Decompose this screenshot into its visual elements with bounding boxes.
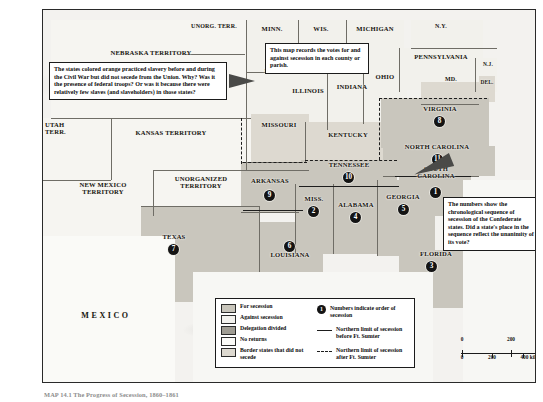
label-tennessee: TENNESSEE: [313, 162, 385, 169]
secession-limit-after-sumter-line: [379, 98, 487, 99]
legend-item: No returns: [221, 336, 311, 346]
legend-item: For secession: [221, 303, 311, 313]
secession-number-mississippi: 2: [308, 206, 319, 217]
border-line: [153, 170, 154, 216]
compass-rose: N E S W: [535, 68, 536, 112]
region-georgia: [377, 180, 435, 256]
legend-swatch-against-secession: [221, 315, 236, 324]
border-line: [259, 206, 260, 272]
border-line: [333, 184, 334, 254]
label-georgia: GEORGIA: [377, 194, 429, 201]
legend-dashed-line-marker: [317, 351, 332, 352]
label-louisiana: LOUISIANA: [259, 252, 321, 259]
border-line: [411, 48, 497, 49]
scale-tick: [511, 350, 512, 357]
secession-limit-before-sumter-line: [243, 210, 303, 211]
label-illinois: ILLINOIS: [283, 88, 333, 95]
legend-label: Border states that did not secede: [240, 347, 311, 361]
label-maryland: MD.: [437, 76, 465, 82]
border-line: [111, 118, 112, 180]
map-frame: NEBRASKA TERRITORY UNORG. TERR. KANSAS T…: [42, 9, 536, 383]
scale-tick-label: 400 kilometers: [520, 354, 536, 360]
label-florida: FLORIDA: [413, 251, 459, 258]
scale-bar-kilometers: 0 200 400 kilometers: [461, 357, 536, 366]
legend-label: Against secession: [240, 314, 283, 321]
compass-rose-icon: [535, 68, 536, 112]
border-line: [377, 180, 378, 256]
region-indiana: [327, 68, 363, 130]
label-arkansas: ARKANSAS: [241, 178, 299, 185]
border-line: [399, 48, 400, 92]
label-mississippi: MISS.: [295, 196, 333, 203]
label-michigan: MICHIGAN: [347, 26, 403, 33]
secession-number-arkansas: 9: [264, 190, 275, 201]
label-minnesota: MINN.: [249, 26, 295, 33]
secession-limit-after-sumter-line: [243, 162, 307, 163]
label-new-york: N.Y.: [421, 23, 461, 29]
callout-county-votes: This map records the votes for and again…: [265, 43, 369, 74]
legend-swatch-for-secession: [221, 304, 236, 313]
legend-label: Numbers indicate order of secession: [330, 305, 409, 319]
border-line: [153, 170, 251, 171]
label-kentucky: KENTUCKY: [319, 132, 377, 139]
label-nebraska-territory: NEBRASKA TERRITORY: [81, 50, 221, 57]
scale-bar-miles: 0 200 400 miles: [461, 340, 536, 349]
border-line: [327, 68, 328, 130]
legend-item: Northern limit of secession after Ft. Su…: [317, 347, 409, 361]
label-new-mexico-territory: NEW MEXICO TERRITORY: [59, 182, 147, 195]
region-kentucky: [305, 122, 387, 162]
scale-tick-label: 0: [461, 336, 464, 342]
secession-limit-before-sumter-line: [299, 186, 399, 187]
legend-item: Border states that did not secede: [221, 347, 311, 361]
legend-label: Delegation divided: [240, 325, 286, 332]
border-line: [246, 20, 247, 170]
border-line: [141, 206, 259, 207]
border-line: [475, 58, 476, 92]
secession-number-virginia: 8: [434, 116, 445, 127]
legend-item: Against secession: [221, 314, 311, 324]
legend-label: No returns: [240, 336, 267, 343]
label-kansas-territory: KANSAS TERRITORY: [105, 130, 237, 137]
legend-item: 1 Numbers indicate order of secession: [317, 305, 409, 319]
scale-tick-label: 200: [488, 354, 496, 360]
border-line: [241, 212, 299, 213]
label-new-jersey: N.J.: [477, 62, 499, 68]
border-line: [295, 184, 296, 254]
border-line: [51, 118, 251, 119]
label-mexico: MEXICO: [61, 312, 151, 320]
label-unorganized-territory: UNORGANIZED TERRITORY: [161, 176, 241, 189]
legend-swatch-no-returns: [221, 337, 236, 346]
label-delaware: DEL.: [477, 80, 497, 86]
map-legend: For secession Against secession Delegati…: [215, 298, 415, 368]
legend-label: Northern limit of secession before Ft. S…: [336, 326, 409, 340]
label-north-carolina: NORTH CAROLINA: [387, 144, 487, 151]
legend-swatch-delegation-divided: [221, 326, 236, 335]
label-indiana: INDIANA: [329, 84, 375, 91]
secession-number-texas: 7: [168, 244, 179, 255]
label-wisconsin: WIS.: [301, 26, 341, 33]
label-alabama: ALABAMA: [333, 202, 379, 209]
secession-number-georgia: 5: [398, 204, 409, 215]
secession-number-florida: 3: [426, 261, 437, 272]
secession-number-south-carolina: 1: [430, 187, 441, 198]
label-utah-territory: UTAH TERR.: [45, 122, 85, 135]
label-missouri: MISSOURI: [251, 122, 307, 129]
secession-number-alabama: 4: [350, 212, 361, 223]
scale-tick-label: 200: [507, 336, 515, 342]
secession-number-louisiana: 6: [284, 241, 295, 252]
label-unorg-terr: UNORG. TERR.: [191, 23, 237, 29]
scale-tick-label: 0: [461, 354, 464, 360]
region-mexico: [43, 236, 175, 382]
callout-sequence-numbers: The numbers show the chronological seque…: [443, 197, 536, 251]
figure-caption: MAP 14.1 The Progress of Secession, 1860…: [44, 391, 464, 402]
border-line: [251, 170, 309, 171]
secession-number-tennessee: 10: [343, 172, 354, 183]
callout-orange-states: The states colored orange practiced slav…: [49, 62, 227, 100]
secession-limit-after-sumter-line: [241, 118, 243, 164]
label-pennsylvania: PENNSYLVANIA: [401, 54, 481, 61]
legend-solid-line-marker: [317, 330, 332, 331]
legend-swatch-border-states: [221, 348, 236, 357]
legend-item: Northern limit of secession before Ft. S…: [317, 326, 409, 340]
label-virginia: VIRGINIA: [409, 106, 471, 113]
secession-limit-after-sumter-line: [379, 98, 381, 160]
